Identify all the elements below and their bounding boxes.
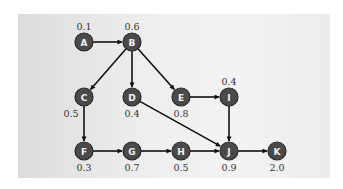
edge-b-e: [138, 49, 174, 90]
node-value: 0.5: [63, 108, 78, 119]
node-label: J: [226, 147, 230, 157]
node-value: 0.9: [221, 162, 236, 173]
node-label: F: [81, 147, 87, 157]
node-value: 0.3: [76, 162, 91, 173]
node-value: 0.8: [173, 108, 188, 119]
node-label: H: [177, 147, 185, 157]
node-c: C0.5: [63, 88, 93, 119]
node-label: G: [128, 147, 135, 157]
nodes: A0.1B0.6C0.5D0.4E0.8I0.4F0.3G0.7H0.5J0.9…: [63, 21, 286, 173]
node-f: F0.3: [75, 142, 93, 173]
node-e: E0.8: [172, 88, 190, 119]
node-d: D0.4: [123, 88, 141, 119]
node-g: G0.7: [123, 142, 141, 173]
node-value: 0.4: [221, 76, 236, 87]
node-k: K2.0: [268, 142, 286, 173]
node-label: K: [274, 147, 282, 157]
node-label: C: [81, 93, 88, 103]
node-h: H0.5: [172, 142, 190, 173]
node-label: A: [81, 38, 88, 48]
node-label: I: [227, 93, 230, 103]
node-value: 0.7: [124, 162, 139, 173]
node-label: D: [128, 93, 135, 103]
directed-graph: A0.1B0.6C0.5D0.4E0.8I0.4F0.3G0.7H0.5J0.9…: [0, 0, 343, 189]
node-value: 0.4: [124, 108, 139, 119]
node-i: I0.4: [220, 76, 238, 107]
node-value: 2.0: [269, 162, 284, 173]
node-value: 0.1: [76, 21, 91, 32]
node-label: B: [129, 38, 136, 48]
node-a: A0.1: [75, 21, 93, 52]
node-label: E: [178, 93, 184, 103]
edge-b-c: [91, 49, 127, 90]
node-j: J0.9: [220, 142, 238, 173]
node-value: 0.5: [173, 162, 188, 173]
node-value: 0.6: [124, 21, 139, 32]
node-b: B0.6: [123, 21, 141, 52]
